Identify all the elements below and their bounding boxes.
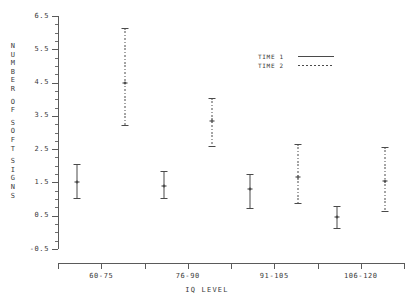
error-bar-line: [298, 144, 299, 204]
y-axis-title-letter: S: [6, 119, 20, 128]
y-axis-title: NUMBEROFSOFTSIGNS: [6, 42, 20, 200]
y-axis-title-letter: N: [6, 183, 20, 192]
x-tick-major: [58, 263, 59, 269]
x-axis-title: IQ LEVEL: [0, 286, 414, 294]
error-bar-cap-bottom: [381, 211, 388, 212]
error-bar-cap-top: [74, 164, 81, 165]
y-axis-title-letter: I: [6, 166, 20, 175]
x-tick-major: [318, 263, 319, 269]
mean-marker: [75, 182, 80, 183]
error-bar: [121, 28, 130, 126]
x-tick-major: [361, 263, 362, 269]
x-tick-major: [145, 263, 146, 269]
error-bar: [332, 206, 341, 229]
chart-legend: TIME 1TIME 2: [258, 52, 344, 70]
legend-item: TIME 1: [258, 52, 344, 61]
y-tick-label: 6.5: [5, 13, 49, 20]
legend-label: TIME 1: [258, 52, 284, 61]
error-bar-line: [211, 98, 212, 148]
y-axis-title-letter: B: [6, 68, 20, 77]
x-tick-label: 106-120: [344, 272, 378, 280]
y-axis-title-letter: R: [6, 85, 20, 94]
error-bar-line: [125, 28, 126, 126]
mean-marker: [209, 120, 214, 121]
y-axis-title-letter: S: [6, 157, 20, 166]
x-tick-label: 60-75: [89, 272, 113, 280]
x-tick-major: [188, 263, 189, 269]
y-axis-title-letter: F: [6, 136, 20, 145]
error-bar: [246, 174, 255, 209]
legend-swatch-dashed: [298, 65, 334, 66]
y-axis-title-letter: G: [6, 174, 20, 183]
error-bar-cap-top: [247, 174, 254, 175]
y-axis-title-letter: U: [6, 51, 20, 60]
mean-marker: [123, 82, 128, 83]
error-bar: [159, 171, 168, 199]
error-bar-cap-top: [160, 171, 167, 172]
error-bar-cap-top: [333, 206, 340, 207]
mean-marker: [161, 185, 166, 186]
legend-item: TIME 2: [258, 61, 344, 70]
y-axis-title-letter: N: [6, 42, 20, 51]
plot-area: [58, 16, 404, 249]
y-axis-title-letter: E: [6, 76, 20, 85]
x-tick-major: [274, 263, 275, 269]
y-tick-label: 0.5: [5, 212, 49, 219]
error-bar-cap-bottom: [247, 208, 254, 209]
error-bar-cap-bottom: [74, 198, 81, 199]
mean-marker: [382, 180, 387, 181]
y-axis-title-letter: O: [6, 98, 20, 107]
chart-figure: 6.55.54.53.52.51.50.5-0.5 60-7576-9091-1…: [0, 0, 414, 299]
error-bar-cap-bottom: [122, 125, 129, 126]
legend-swatch-solid: [298, 56, 334, 57]
x-tick-major: [101, 263, 102, 269]
y-axis-title-letter: O: [6, 127, 20, 136]
legend-label: TIME 2: [258, 61, 284, 70]
error-bar-cap-bottom: [295, 203, 302, 204]
mean-marker: [334, 217, 339, 218]
y-axis-title-letter: M: [6, 59, 20, 68]
error-bar-cap-top: [295, 144, 302, 145]
x-tick-label: 76-90: [176, 272, 200, 280]
x-tick-major: [231, 263, 232, 269]
error-bar-line: [250, 174, 251, 209]
y-axis-title-letter: S: [6, 192, 20, 201]
error-bar-cap-bottom: [333, 228, 340, 229]
x-tick-major: [404, 263, 405, 269]
y-axis-title-letter: T: [6, 145, 20, 154]
y-axis-title-letter: F: [6, 106, 20, 115]
error-bar: [73, 164, 82, 199]
error-bar-cap-bottom: [208, 146, 215, 147]
error-bar: [294, 144, 303, 204]
error-bar-cap-top: [381, 147, 388, 148]
error-bar-cap-bottom: [160, 198, 167, 199]
y-tick-major: [52, 249, 58, 250]
error-bar-cap-top: [208, 98, 215, 99]
error-bar-cap-top: [122, 28, 129, 29]
mean-marker: [248, 189, 253, 190]
y-tick-label: -0.5: [5, 246, 49, 253]
error-bar: [207, 98, 216, 148]
mean-marker: [296, 177, 301, 178]
error-bar: [380, 147, 389, 212]
x-tick-label: 91-105: [260, 272, 289, 280]
